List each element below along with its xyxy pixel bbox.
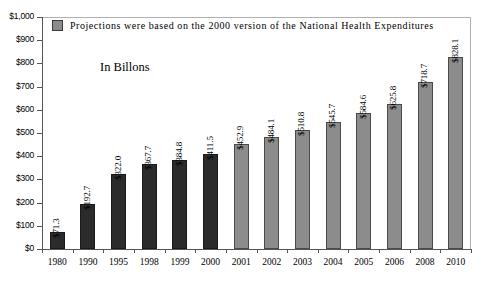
y-axis-tick-label: $200 [16, 197, 34, 207]
bar-1995 [111, 174, 126, 249]
x-axis-label-1999: 1999 [165, 257, 196, 267]
bar-value-label-2010: $828.1 [450, 39, 460, 63]
x-axis-tick-mark [195, 249, 196, 253]
plot-area [42, 17, 471, 249]
y-axis-line [42, 17, 43, 250]
x-axis-label-2001: 2001 [226, 257, 257, 267]
y-axis-tick-label: $500 [16, 127, 34, 137]
bar-1990 [80, 204, 95, 249]
x-axis-label-2005: 2005 [348, 257, 379, 267]
x-axis-tick-mark [103, 249, 104, 253]
bar-value-label-2006: $625.8 [388, 86, 398, 110]
bar-1998 [142, 164, 157, 249]
units-annotation: In Billons [100, 60, 150, 75]
x-axis-tick-mark [73, 249, 74, 253]
y-axis-tick-label: $800 [16, 57, 34, 67]
x-axis-label-1990: 1990 [73, 257, 104, 267]
bar-2003 [295, 130, 310, 249]
bar-2000 [203, 154, 218, 249]
x-axis-tick-mark [348, 249, 349, 253]
y-axis-tick-label: $1,000 [9, 11, 34, 21]
bar-2005 [356, 113, 371, 249]
x-axis-tick-mark [287, 249, 288, 253]
bar-value-label-2002: $484.1 [266, 119, 276, 143]
bar-2002 [264, 137, 279, 249]
y-axis-tick-label: $100 [16, 220, 34, 230]
y-axis-tick-label: $300 [16, 173, 34, 183]
legend-swatch-projected [52, 20, 63, 31]
bar-value-label-1999: $384.8 [174, 142, 184, 166]
x-axis-label-2010: 2010 [440, 257, 471, 267]
bar-value-label-1998: $367.7 [143, 146, 153, 170]
y-axis-tick-label: $700 [16, 81, 34, 91]
bar-2010 [448, 57, 463, 249]
y-axis-tick-mark [37, 133, 42, 134]
x-axis-tick-mark [318, 249, 319, 253]
x-axis-tick-mark [257, 249, 258, 253]
bar-2006 [387, 104, 402, 249]
y-axis-tick-mark [37, 87, 42, 88]
x-axis-tick-mark [42, 249, 43, 253]
y-axis-tick-label: $400 [16, 150, 34, 160]
x-axis-tick-mark [410, 249, 411, 253]
y-axis-tick-mark [37, 179, 42, 180]
x-axis-label-2006: 2006 [379, 257, 410, 267]
bar-value-label-1980: $71.3 [51, 219, 61, 239]
chart-legend: Projections were based on the 2000 versi… [52, 20, 434, 31]
y-axis-tick-mark [37, 156, 42, 157]
x-axis-label-1998: 1998 [134, 257, 165, 267]
x-axis-tick-mark [471, 249, 472, 253]
bar-value-label-1990: $192.7 [82, 186, 92, 210]
x-axis-tick-mark [440, 249, 441, 253]
y-axis-tick-label: $900 [16, 34, 34, 44]
x-axis-label-2004: 2004 [318, 257, 349, 267]
bar-value-label-2004: $545.7 [327, 104, 337, 128]
bar-chart: $0$100$200$300$400$500$600$700$800$900$1… [0, 0, 491, 283]
bar-value-label-2005: $584.6 [358, 95, 368, 119]
x-axis-tick-mark [379, 249, 380, 253]
bar-1999 [172, 160, 187, 249]
y-axis-tick-label: $0 [25, 243, 34, 253]
y-axis-tick-mark [37, 63, 42, 64]
x-axis-tick-mark [226, 249, 227, 253]
x-axis-label-2008: 2008 [410, 257, 441, 267]
y-axis-tick-mark [37, 226, 42, 227]
y-axis-tick-label: $600 [16, 104, 34, 114]
bar-value-label-2000: $411.5 [205, 136, 215, 160]
bar-value-label-1995: $322.0 [113, 156, 123, 180]
bar-2008 [418, 82, 433, 249]
y-axis-tick-mark [37, 17, 42, 18]
bar-value-label-2001: $452.9 [235, 126, 245, 150]
y-axis-tick-mark [37, 110, 42, 111]
bar-value-label-2003: $510.8 [296, 112, 306, 136]
x-axis-tick-mark [165, 249, 166, 253]
bar-value-label-2008: $718.7 [419, 64, 429, 88]
bar-2001 [234, 144, 249, 249]
x-axis-label-1980: 1980 [42, 257, 73, 267]
x-axis-tick-mark [134, 249, 135, 253]
y-axis-tick-mark [37, 203, 42, 204]
legend-label-projected: Projections were based on the 2000 versi… [70, 20, 434, 31]
bar-2004 [326, 122, 341, 249]
x-axis-label-2003: 2003 [287, 257, 318, 267]
x-axis-label-2002: 2002 [257, 257, 288, 267]
x-axis-label-1995: 1995 [103, 257, 134, 267]
x-axis-label-2000: 2000 [195, 257, 226, 267]
y-axis-tick-mark [37, 40, 42, 41]
